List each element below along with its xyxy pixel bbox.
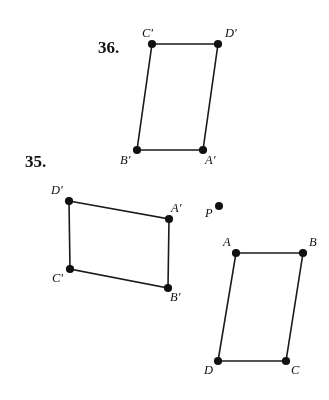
vertex-label-C-prime: C' <box>142 27 153 40</box>
vertex-dot-C-prime <box>66 265 74 273</box>
vertex-label-D-prime: D' <box>51 184 63 197</box>
vertex-dot-D-prime <box>65 197 73 205</box>
vertex-dot-B-prime <box>133 146 141 154</box>
vertex-dot-B <box>299 249 307 257</box>
vertex-label-D: D <box>204 364 213 377</box>
point-dot-P <box>215 202 223 210</box>
vertex-label-B: B <box>309 236 317 249</box>
problem-number-35: 35. <box>25 152 46 172</box>
figures-layer <box>0 0 329 400</box>
vertex-label-A-prime: A' <box>171 202 181 215</box>
vertex-label-A-prime: A' <box>205 154 215 167</box>
geometry-worksheet-figure: C'D'A'B'D'A'B'C'ABCDP36.35. <box>0 0 329 400</box>
point-label-P: P <box>205 207 213 220</box>
vertex-dot-D-prime <box>214 40 222 48</box>
vertex-label-C-prime: C' <box>52 272 63 285</box>
vertex-label-B-prime: B' <box>120 154 130 167</box>
vertex-label-A: A <box>223 236 231 249</box>
problem-number-36: 36. <box>98 38 119 58</box>
vertex-label-B-prime: B' <box>170 291 180 304</box>
vertex-dot-A-prime <box>165 215 173 223</box>
parallelogram-A-prime-B-prime-C-prime-D-prime <box>137 44 218 150</box>
vertex-label-C: C <box>291 364 299 377</box>
quadrilateral-A-prime-B-prime-C-prime-D-prime <box>69 201 169 288</box>
parallelogram-A-B-C-D <box>218 253 303 361</box>
vertex-dot-A <box>232 249 240 257</box>
polygon-outlines <box>69 44 303 361</box>
vertex-dot-C-prime <box>148 40 156 48</box>
vertex-label-D-prime: D' <box>225 27 237 40</box>
vertex-dot-D <box>214 357 222 365</box>
vertex-dots <box>65 40 307 365</box>
vertex-dot-C <box>282 357 290 365</box>
